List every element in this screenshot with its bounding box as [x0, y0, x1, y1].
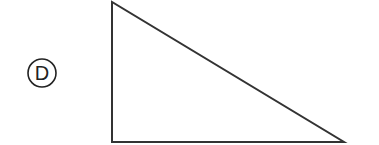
option-label: D — [28, 59, 56, 87]
diagram-canvas: D — [0, 0, 379, 145]
right-triangle — [112, 2, 344, 142]
option-letter: D — [35, 62, 49, 84]
